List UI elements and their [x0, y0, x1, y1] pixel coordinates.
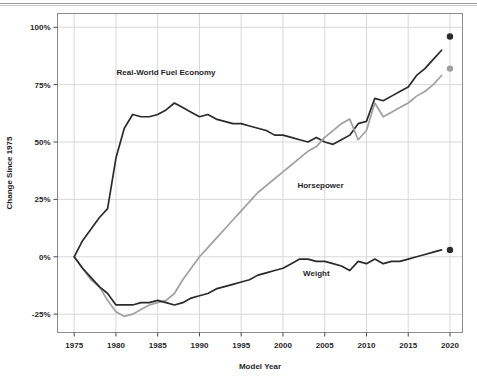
x-axis-tick-label: 1995 [232, 341, 250, 350]
x-axis-tick-label: 1980 [107, 341, 125, 350]
y-axis-tick-label: 100% [30, 23, 50, 32]
page-top-rule [0, 3, 477, 4]
annotations-group: Real-World Fuel EconomyHorsepowerWeight [117, 68, 344, 278]
x-axis-tick-label: 2015 [399, 341, 417, 350]
y-axis-tick-label: 0% [39, 253, 51, 262]
series-line-horsepower [74, 75, 441, 316]
fuel-economy-label: Real-World Fuel Economy [117, 68, 217, 77]
x-axis-tick-label: 1985 [149, 341, 167, 350]
horsepower-label: Horsepower [297, 181, 343, 190]
x-axis-tick-label: 2010 [358, 341, 376, 350]
x-axis-tick-label: 2020 [441, 341, 459, 350]
weight-label: Weight [303, 269, 330, 278]
series-group [74, 50, 441, 316]
chart-container: 1975198019851990199520002005201020152020… [0, 0, 477, 376]
series-line-real-world-fuel-economy [74, 50, 441, 257]
series-line-weight [74, 250, 441, 305]
horsepower-projected-point [447, 65, 453, 71]
y-axis-tick-label: 25% [34, 195, 50, 204]
y-axis-title: Change Since 1975 [5, 136, 14, 209]
axes: 1975198019851990199520002005201020152020… [30, 23, 459, 349]
x-axis-tick-label: 2005 [316, 341, 334, 350]
x-axis-tick-label: 2000 [274, 341, 292, 350]
x-axis-tick-label: 1990 [191, 341, 209, 350]
y-axis-tick-label: 75% [34, 81, 50, 90]
x-axis-title: Model Year [239, 362, 281, 371]
fuel-economy-projected-point [447, 33, 453, 39]
x-axis-tick-label: 1975 [65, 341, 83, 350]
line-chart: 1975198019851990199520002005201020152020… [0, 0, 477, 376]
y-axis-tick-label: 50% [34, 138, 50, 147]
page-top-rule-secondary [0, 5, 477, 6]
plot-frame [58, 14, 463, 333]
weight-projected-point [447, 247, 453, 253]
gridlines [58, 14, 463, 333]
y-axis-tick-label: -25% [32, 310, 51, 319]
